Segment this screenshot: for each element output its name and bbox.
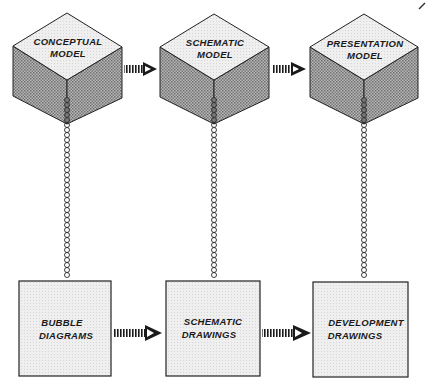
bubble-diagrams-box: BUBBLE DIAGRAMS	[19, 281, 111, 376]
bubble-diagrams-label-line2: DIAGRAMS	[39, 330, 93, 341]
schematic-drawings-box: SCHEMATIC DRAWINGS	[166, 281, 260, 376]
conceptual-model-label-line1: CONCEPTUAL	[34, 36, 103, 47]
schematic-drawings-label-line1: SCHEMATIC	[184, 316, 242, 327]
conceptual-model-label-line2: MODEL	[50, 48, 86, 59]
arrow-conceptual-to-schematic	[124, 62, 157, 76]
development-drawings-label-line2: DRAWINGS	[328, 330, 383, 341]
development-drawings-box: DEVELOPMENT DRAWINGS	[313, 282, 408, 377]
schematic-drawings-label-line2: DRAWINGS	[182, 329, 237, 340]
stray-mark	[419, 3, 425, 9]
schematic-model-label-line1: SCHEMATIC	[186, 37, 244, 48]
presentation-model-label-line2: MODEL	[347, 50, 383, 61]
presentation-model-label-line1: PRESENTATION	[327, 38, 404, 49]
arrow-schematic-to-presentation	[272, 62, 306, 76]
diagram-canvas: CONCEPTUAL MODEL SCHEMATIC MODEL PRESENT…	[0, 0, 429, 390]
development-drawings-label-line1: DEVELOPMENT	[328, 317, 405, 328]
bubble-diagrams-label-line1: BUBBLE	[41, 317, 83, 328]
arrow-bubble-to-schematic-drawings	[113, 325, 162, 341]
arrow-schematic-to-development-drawings	[262, 325, 311, 341]
schematic-model-label-line2: MODEL	[197, 49, 233, 60]
